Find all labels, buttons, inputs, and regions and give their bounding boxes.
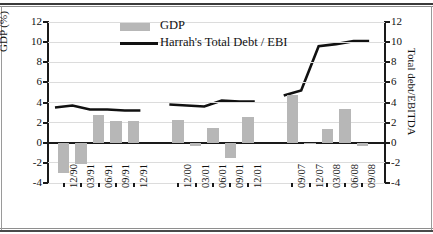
x-axis-tick: [133, 183, 135, 187]
x-axis-tick: [361, 183, 363, 187]
x-axis-tick-label: 06/01: [217, 164, 228, 188]
y-axis-right-tick-label: 4: [391, 97, 431, 108]
y-axis-left-tick: [43, 41, 48, 43]
x-axis-tick: [326, 183, 328, 187]
y-axis-right-tick: [385, 122, 390, 124]
bar-gdp: [322, 129, 334, 143]
y-axis-left-tick: [43, 21, 48, 23]
y-axis-right-tick-label: 8: [391, 56, 431, 67]
y-axis-right-tick-label: 6: [391, 76, 431, 87]
x-axis-tick-label: 12/90: [68, 164, 79, 188]
bar-gdp: [339, 109, 351, 143]
bar-gdp: [225, 143, 237, 158]
y-axis-left-tick-label: 10: [2, 36, 42, 47]
debt-ratio-line: [55, 106, 140, 111]
bar-gdp: [93, 115, 105, 143]
x-axis-tick-label: 06/08: [349, 164, 360, 188]
bar-gdp: [110, 121, 122, 143]
y-axis-right-tick-label: 0: [391, 137, 431, 148]
figure-border-right: [431, 6, 432, 230]
x-axis-tick: [98, 183, 100, 187]
x-axis-tick: [309, 183, 311, 187]
y-axis-right-tick: [385, 182, 390, 184]
x-axis-tick: [247, 183, 249, 187]
gridline: [48, 102, 385, 103]
bar-gdp: [357, 143, 369, 146]
bar-gdp: [207, 128, 219, 143]
x-axis-tick-label: 09/01: [234, 164, 245, 188]
figure-border-top-thin: [0, 6, 433, 7]
x-axis-tick: [80, 183, 82, 187]
legend-line-swatch-icon: [120, 42, 158, 45]
x-axis-tick-label: 09/07: [296, 164, 307, 188]
bar-gdp: [304, 143, 316, 145]
gridline: [48, 82, 385, 83]
y-axis-left-tick: [43, 61, 48, 63]
x-axis-tick: [212, 183, 214, 187]
y-axis-left-tick-label: 8: [2, 56, 42, 67]
y-axis-left-tick-label: 6: [2, 76, 42, 87]
legend-label-debt: Harrah's Total Debt / EBI: [160, 35, 288, 50]
x-axis-tick-label: 09/08: [366, 164, 377, 188]
y-axis-right-tick: [385, 41, 390, 43]
x-axis-tick-label: 12/01: [252, 164, 263, 188]
x-axis-tick-label: 06/91: [103, 164, 114, 188]
x-axis-tick: [63, 183, 65, 187]
bar-gdp: [242, 117, 254, 143]
bar-gdp: [190, 143, 202, 146]
x-axis-tick-label: 12/91: [138, 164, 149, 188]
y-axis-right-tick-label: -4: [391, 177, 431, 188]
y-axis-right-tick: [385, 61, 390, 63]
legend-bar-swatch-icon: [120, 23, 150, 31]
figure-border-bottom: [0, 230, 433, 232]
y-axis-left-tick-label: 12: [2, 16, 42, 27]
gridline: [48, 22, 385, 23]
y-axis-left-tick-label: 0: [2, 137, 42, 148]
y-axis-left-tick: [43, 81, 48, 83]
y-axis-right-tick: [385, 102, 390, 104]
y-axis-left-tick: [43, 182, 48, 184]
debt-ratio-line: [284, 41, 369, 95]
y-axis-right-tick-label: -2: [391, 157, 431, 168]
x-axis-tick-label: 03/08: [331, 164, 342, 188]
y-axis-right-tick: [385, 81, 390, 83]
x-axis-tick-label: 03/01: [200, 164, 211, 188]
y-axis-left-tick: [43, 102, 48, 104]
figure-border-bottom-thin: [0, 228, 433, 229]
y-axis-right-tick: [385, 21, 390, 23]
figure-border-top: [0, 3, 433, 5]
bar-gdp: [287, 95, 299, 142]
y-axis-right-tick: [385, 142, 390, 144]
x-axis-tick: [344, 183, 346, 187]
y-axis-left-tick: [43, 122, 48, 124]
x-axis-tick: [195, 183, 197, 187]
chart-figure: GDP (%) Total debt/EBITDA 12121010886644…: [0, 0, 433, 234]
bar-gdp: [75, 143, 87, 164]
y-axis-right-tick-label: 10: [391, 36, 431, 47]
bar-gdp: [172, 120, 184, 143]
y-axis-left-tick-label: 2: [2, 117, 42, 128]
y-axis-left-tick-label: 4: [2, 97, 42, 108]
legend-label-gdp: GDP: [160, 18, 185, 33]
x-axis-tick-label: 12/00: [182, 164, 193, 188]
x-axis-tick: [177, 183, 179, 187]
y-axis-right-tick-label: 12: [391, 16, 431, 27]
x-axis-tick-label: 03/91: [85, 164, 96, 188]
y-axis-right-tick-label: 2: [391, 117, 431, 128]
gridline: [48, 62, 385, 63]
x-axis-tick: [291, 183, 293, 187]
y-axis-left-tick-label: -4: [2, 177, 42, 188]
x-axis-tick: [229, 183, 231, 187]
x-axis-tick-label: 12/07: [314, 164, 325, 188]
x-axis-tick-label: 09/91: [120, 164, 131, 188]
y-axis-left-tick-label: -2: [2, 157, 42, 168]
y-axis-right-tick: [385, 162, 390, 164]
bar-gdp: [128, 121, 140, 143]
y-axis-left-tick: [43, 162, 48, 164]
x-axis-tick: [115, 183, 117, 187]
